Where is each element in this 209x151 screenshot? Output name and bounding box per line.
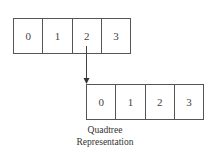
top-array-cell-0: 0	[14, 19, 43, 53]
top-level-array: 0 1 2 3	[13, 18, 131, 54]
diagram-caption: Quadtree Representation	[64, 124, 146, 148]
child-array-cell-3: 3	[175, 85, 203, 119]
top-array-cell-3: 3	[102, 19, 130, 53]
top-array-cell-2: 2	[73, 19, 102, 53]
child-array: 0 1 2 3	[86, 84, 204, 120]
child-array-cell-2: 2	[146, 85, 175, 119]
top-array-cell-1: 1	[43, 19, 72, 53]
caption-line-1: Quadtree	[64, 124, 146, 136]
child-array-cell-0: 0	[87, 85, 116, 119]
child-array-cell-1: 1	[116, 85, 145, 119]
caption-line-2: Representation	[64, 136, 146, 148]
